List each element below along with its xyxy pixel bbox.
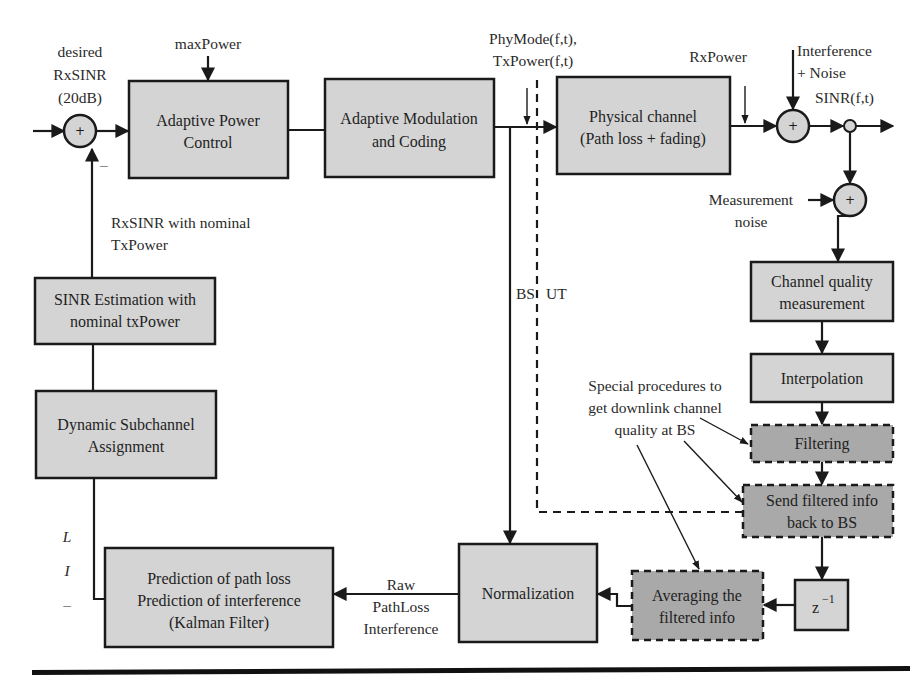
normalization-block: Normalization (459, 544, 597, 642)
sum3-to-cqm-arrow (838, 216, 850, 261)
svg-text:Assignment: Assignment (88, 438, 165, 456)
svg-text:noise: noise (735, 213, 768, 230)
measurement-noise-label: Measurement noise (709, 191, 794, 230)
averaging-to-normalization-arrow (598, 594, 632, 606)
svg-text:L: L (62, 528, 72, 545)
svg-text:desired: desired (58, 43, 103, 60)
svg-text:Send filtered info: Send filtered info (766, 492, 878, 509)
filtering-block: Filtering (751, 425, 893, 462)
rxpower-label: RxPower (689, 48, 748, 65)
svg-text:TxPower(f,t): TxPower(f,t) (493, 52, 574, 70)
bs-label: BS (516, 285, 535, 302)
summing-junction-3: + (834, 184, 866, 216)
svg-text:Adaptive Modulation: Adaptive Modulation (340, 110, 477, 128)
svg-text:SINR Estimation with: SINR Estimation with (54, 291, 196, 308)
svg-text:Interpolation: Interpolation (781, 370, 864, 388)
svg-text:filtered info: filtered info (659, 609, 735, 626)
svg-text:(Path loss + fading): (Path loss + fading) (580, 130, 706, 148)
svg-text:+: + (845, 193, 855, 207)
z-inverse-delay-block: z −1 (795, 580, 848, 630)
svg-text:Averaging the: Averaging the (652, 587, 742, 605)
svg-text:TxPower: TxPower (111, 236, 169, 253)
phymode-txpower-label: PhyMode(f,t), TxPower(f,t) (489, 30, 577, 70)
annotation-arrow-averaging (637, 445, 699, 569)
max-power-label: maxPower (175, 35, 242, 52)
rxsinr-nominal-label: RxSINR with nominal TxPower (111, 214, 251, 253)
interference-noise-label: Interference + Noise (797, 42, 872, 81)
send-filtered-info-block: Send filtered info back to BS (743, 485, 893, 537)
svg-text:get downlink channel: get downlink channel (588, 399, 721, 416)
raw-pathloss-label: Raw PathLoss Interference (364, 576, 439, 637)
svg-text:–: – (62, 596, 71, 613)
special-procedures-label: Special procedures to get downlink chann… (588, 377, 722, 438)
svg-text:−1: −1 (822, 592, 835, 606)
svg-text:Normalization: Normalization (482, 585, 574, 602)
prediction-kalman-block: Prediction of path loss Prediction of in… (105, 548, 333, 647)
svg-text:Special procedures to: Special procedures to (588, 377, 722, 394)
annotation-arrow-filtering (700, 418, 748, 444)
li-labels: L I – (62, 528, 72, 613)
svg-text:nominal txPower: nominal txPower (70, 313, 180, 330)
bottom-rule (32, 666, 910, 675)
svg-text:Interference: Interference (364, 620, 439, 637)
svg-text:+: + (788, 119, 798, 133)
dynamic-subchannel-assignment-block: Dynamic Subchannel Assignment (36, 391, 216, 478)
minus-sign: – (99, 156, 108, 173)
svg-text:(Kalman Filter): (Kalman Filter) (169, 614, 269, 632)
svg-text:z: z (812, 599, 819, 616)
svg-text:Dynamic Subchannel: Dynamic Subchannel (57, 416, 195, 434)
adaptive-power-control-block: Adaptive Power Control (129, 81, 288, 178)
plus-sign: + (75, 124, 85, 138)
svg-text:(20dB): (20dB) (58, 89, 102, 107)
svg-text:Measurement: Measurement (709, 191, 794, 208)
svg-text:Prediction of path loss: Prediction of path loss (147, 570, 291, 588)
svg-text:Physical channel: Physical channel (589, 108, 698, 126)
svg-text:Raw: Raw (387, 576, 416, 593)
svg-text:measurement: measurement (779, 295, 865, 312)
block-diagram: + desired RxSINR (20dB) maxPower Adaptiv… (0, 0, 923, 691)
svg-text:Channel quality: Channel quality (771, 273, 873, 291)
svg-text:RxSINR: RxSINR (53, 66, 107, 83)
svg-text:back to BS: back to BS (787, 514, 857, 531)
annotation-arrow-send (684, 441, 742, 502)
sinr-estimation-block: SINR Estimation with nominal txPower (35, 278, 215, 344)
svg-text:and Coding: and Coding (372, 133, 446, 151)
svg-text:+ Noise: + Noise (797, 64, 846, 81)
svg-text:I: I (63, 562, 70, 579)
svg-text:PhyMode(f,t),: PhyMode(f,t), (489, 30, 577, 48)
svg-text:PathLoss: PathLoss (373, 598, 430, 615)
branch-node (844, 120, 856, 132)
physical-channel-block: Physical channel (Path loss + fading) (557, 77, 730, 174)
svg-text:RxSINR with nominal: RxSINR with nominal (111, 214, 251, 231)
adaptive-modulation-coding-block: Adaptive Modulation and Coding (325, 79, 494, 177)
svg-text:Filtering: Filtering (794, 435, 849, 453)
svg-text:Adaptive Power: Adaptive Power (156, 112, 260, 130)
ut-label: UT (546, 285, 567, 302)
svg-text:Control: Control (184, 134, 233, 151)
interpolation-block: Interpolation (751, 354, 893, 402)
svg-text:quality at BS: quality at BS (615, 421, 696, 438)
sinr-ft-label: SINR(f,t) (815, 89, 874, 107)
summing-junction-2: + (777, 110, 809, 142)
summing-junction-1: + (64, 115, 96, 147)
svg-text:Interference: Interference (797, 42, 872, 59)
averaging-filtered-info-block: Averaging the filtered info (632, 571, 763, 640)
prediction-to-dsa-line (94, 478, 105, 599)
channel-quality-measurement-block: Channel quality measurement (751, 262, 893, 321)
svg-text:Prediction of interference: Prediction of interference (137, 592, 300, 609)
desired-rxsinr-label: desired RxSINR (20dB) (53, 43, 107, 107)
